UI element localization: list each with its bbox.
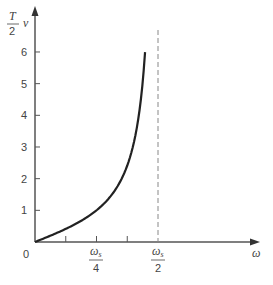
- y-tick-label: 3: [21, 141, 27, 153]
- y-axis-arrow-icon: [32, 6, 39, 16]
- y-tick-label: 1: [21, 204, 27, 216]
- y-ticks: 123456: [21, 46, 40, 216]
- chart: 123456 T 2 ν 0 ωs 4 ωs 2 ω: [0, 0, 273, 285]
- y-tick-label: 6: [21, 46, 27, 58]
- y-tick-label: 4: [21, 109, 27, 121]
- x-axis-arrow-icon: [250, 239, 260, 246]
- xtick-label-ws2-den: 2: [155, 262, 161, 274]
- ylabel-variable: ν: [23, 16, 29, 30]
- y-tick-label: 5: [21, 78, 27, 90]
- origin-label: 0: [23, 248, 29, 260]
- xlabel: ω: [252, 246, 260, 260]
- ylabel-numerator: T: [9, 9, 17, 23]
- data-curve: [35, 52, 145, 242]
- xtick-label-ws4-num: ωs: [90, 244, 102, 259]
- xtick-label-ws2-num: ωs: [152, 244, 164, 259]
- ylabel-denominator: 2: [9, 25, 15, 37]
- x-ticks: [66, 236, 128, 242]
- xtick-label-ws4-den: 4: [93, 262, 99, 274]
- y-tick-label: 2: [21, 173, 27, 185]
